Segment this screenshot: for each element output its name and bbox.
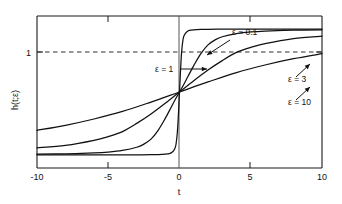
annotation-epsilon-0-1-label: ε = 0.1 bbox=[232, 27, 258, 37]
x-tick-label--10: -10 bbox=[30, 172, 43, 182]
x-tick-label-0: 0 bbox=[176, 172, 181, 182]
x-axis-title: t bbox=[178, 187, 181, 197]
x-tick-label-10: 10 bbox=[317, 172, 327, 182]
line-chart-plot: ε = 0.1ε = 1ε = 3ε = 10 -10 -5 0 5 10 1 … bbox=[0, 0, 342, 204]
x-tick-label--5: -5 bbox=[104, 172, 112, 182]
annotation-epsilon-10-label: ε = 10 bbox=[288, 97, 311, 107]
y-tick-label-1: 1 bbox=[26, 48, 31, 58]
chart-figure: ε = 0.1ε = 1ε = 3ε = 10 -10 -5 0 5 10 1 … bbox=[0, 0, 342, 204]
annotation-epsilon-1-label: ε = 1 bbox=[155, 64, 173, 74]
y-axis-title: h(t;ε) bbox=[10, 90, 20, 110]
annotation-epsilon-0-1-arrow-head bbox=[207, 50, 213, 55]
annotation-epsilon-3-label: ε = 3 bbox=[288, 74, 306, 84]
x-tick-label-5: 5 bbox=[247, 172, 252, 182]
